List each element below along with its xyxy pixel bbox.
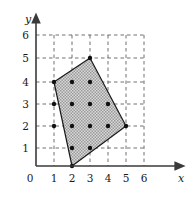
x-tick-label: 0 (27, 172, 34, 184)
lattice-polygon-plot: x y 0 1 2 3 4 5 6 1 2 3 4 5 6 (0, 0, 196, 200)
lattice-point (52, 102, 56, 106)
lattice-point (88, 146, 92, 150)
x-tick-label: 2 (69, 172, 76, 184)
lattice-point (70, 102, 74, 106)
x-tick-label: 5 (123, 172, 130, 184)
y-tick-label: 5 (22, 52, 29, 64)
x-axis-label: x (178, 172, 185, 185)
y-tick-label: 6 (22, 29, 29, 41)
lattice-point (52, 80, 56, 84)
lattice-point (88, 102, 92, 106)
lattice-point (70, 80, 74, 84)
x-tick-label: 1 (51, 172, 58, 184)
y-tick-label: 3 (22, 98, 29, 110)
y-tick-label: 2 (22, 120, 29, 132)
x-tick-label: 3 (87, 172, 94, 184)
x-tick-label: 4 (105, 172, 112, 184)
lattice-point (106, 124, 110, 128)
lattice-point (52, 124, 56, 128)
y-tick-label: 4 (22, 76, 29, 88)
y-axis-label: y (24, 13, 32, 26)
y-tick-label: 1 (22, 142, 29, 154)
x-tick-label: 6 (141, 172, 148, 184)
x-tick-labels: 0 1 2 3 4 5 6 (27, 172, 148, 184)
lattice-point (88, 124, 92, 128)
lattice-point (124, 124, 128, 128)
y-tick-labels: 1 2 3 4 5 6 (22, 29, 29, 154)
lattice-point (70, 124, 74, 128)
lattice-point (88, 56, 92, 60)
lattice-point (70, 146, 74, 150)
lattice-point (88, 80, 92, 84)
lattice-point (106, 102, 110, 106)
figure-container: x y 0 1 2 3 4 5 6 1 2 3 4 5 6 (0, 0, 196, 200)
